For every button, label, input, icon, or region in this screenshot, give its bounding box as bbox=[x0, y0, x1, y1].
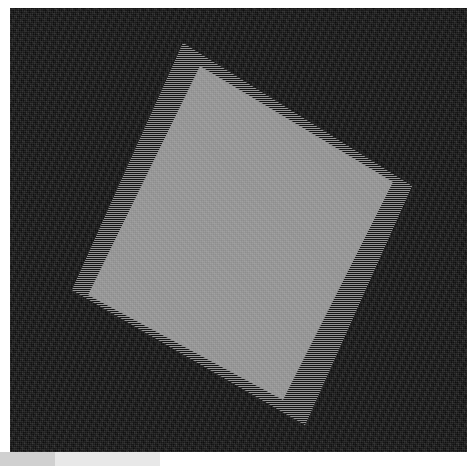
screenshot-root bbox=[0, 0, 467, 466]
footer-right-block bbox=[55, 452, 160, 466]
image-canvas bbox=[10, 8, 467, 452]
footer-left-block bbox=[0, 452, 55, 466]
